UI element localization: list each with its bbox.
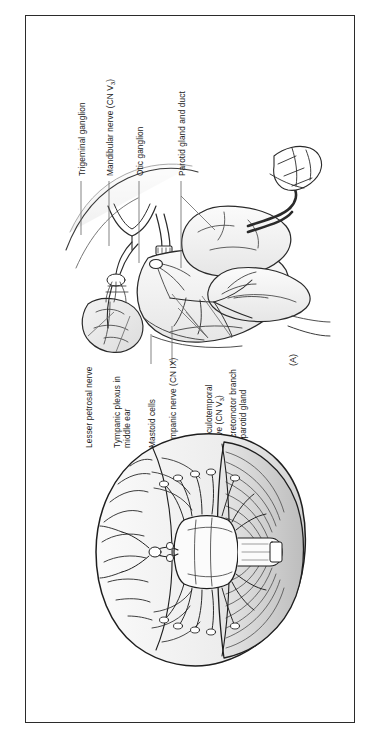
figure-frame: Trigeminal ganglion Mandibular nerve (CN… (25, 15, 355, 723)
parotid-gland-innervation-drawing (52, 36, 332, 356)
brain-inferior-view-drawing (56, 402, 328, 702)
label-otic-ganglion: Otic ganglion (135, 126, 145, 176)
label-auriculotemporal-subscript: 3 (218, 398, 225, 402)
label-parotid-gland-and-duct: Parotid gland and duct (177, 91, 187, 176)
figure-page: Trigeminal ganglion Mandibular nerve (CN… (0, 0, 379, 743)
label-mandibular-nerve: Mandibular nerve (CN V3) (105, 79, 116, 176)
parotid-artwork-svg (52, 36, 332, 356)
panel-letter: (A) (288, 354, 298, 366)
label-mandibular-nerve-subscript: 3 (109, 82, 116, 86)
brain-artwork-svg (56, 402, 328, 702)
label-mandibular-nerve-text: Mandibular nerve (CN V (105, 85, 115, 176)
label-trigeminal-ganglion: Trigeminal ganglion (77, 102, 87, 176)
